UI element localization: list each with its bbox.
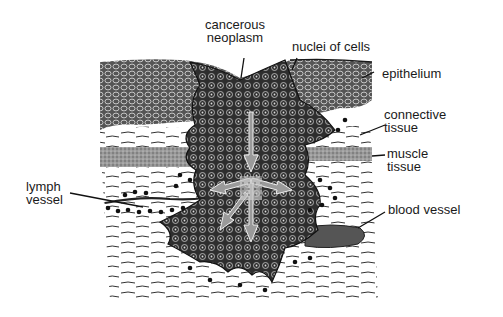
label-line: blood vessel: [388, 203, 460, 216]
label-line: nuclei of cells: [292, 40, 370, 53]
label-blood-vessel: blood vessel: [388, 203, 460, 216]
label-line: tissue: [387, 160, 428, 173]
label-line: epithelium: [382, 67, 441, 80]
label-muscle-tissue: muscle tissue: [387, 147, 428, 173]
label-epithelium: epithelium: [382, 67, 441, 80]
arrow-center-highlight: [240, 176, 262, 200]
label-connective-tissue: connective tissue: [384, 108, 446, 134]
label-lymph-vessel: lymph vessel: [26, 180, 63, 206]
label-line: tissue: [384, 121, 446, 134]
label-nuclei-of-cells: nuclei of cells: [292, 40, 370, 53]
label-cancerous-neoplasm: cancerous neoplasm: [205, 18, 265, 44]
label-line: neoplasm: [205, 31, 265, 44]
label-line: vessel: [26, 193, 63, 206]
